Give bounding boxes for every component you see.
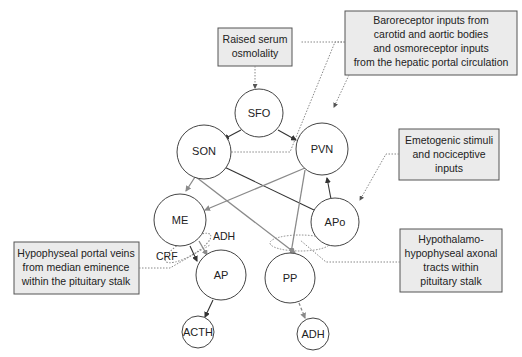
node-acth: ACTH xyxy=(182,316,214,348)
edge-apo-pvn xyxy=(327,178,331,199)
node-adh-output: ADH xyxy=(297,318,329,350)
edge-ap-acth xyxy=(205,300,213,317)
box-line: Hypophyseal portal veins xyxy=(17,247,134,259)
edge-son-me xyxy=(186,177,195,191)
edge-me-ap-adh xyxy=(199,241,207,255)
box-line: osmolality xyxy=(232,47,279,59)
node-pp: PP xyxy=(265,253,315,303)
label-crf: CRF xyxy=(156,250,178,262)
edge-pp-adh xyxy=(299,303,305,318)
box-raised-serum-osmolality: Raised serum osmolality xyxy=(218,28,292,66)
box-line: Raised serum xyxy=(223,33,288,45)
node-label: SON xyxy=(192,145,216,157)
box-hypothalamo-hypophyseal-tracts: Hypothalamo- hypophyseal axonal tracts w… xyxy=(400,229,502,292)
connector-baro-to-pvn xyxy=(334,75,349,107)
box-line: Emetogenic stimuli xyxy=(405,134,493,146)
box-line: hypophyseal axonal xyxy=(405,247,498,259)
box-hypophyseal-portal-veins: Hypophyseal portal veins from median emi… xyxy=(14,242,139,294)
node-label: ME xyxy=(172,214,189,226)
box-line: Hypothalamo- xyxy=(418,233,484,245)
node-label: PP xyxy=(283,272,298,284)
node-label: APo xyxy=(325,216,346,228)
node-sfo: SFO xyxy=(235,89,283,137)
box-line: and nociceptive xyxy=(413,148,486,160)
connector-emeto-to-apo xyxy=(360,154,399,200)
box-line: carotid and aortic bodies xyxy=(374,28,488,40)
box-baroreceptor-inputs: Baroreceptor inputs from carotid and aor… xyxy=(345,11,517,75)
node-son: SON xyxy=(177,125,231,179)
node-label: PVN xyxy=(311,143,334,155)
box-line: pituitary stalk xyxy=(420,275,482,287)
node-label: AP xyxy=(214,269,229,281)
box-line: Baroreceptor inputs from xyxy=(373,14,489,26)
node-pvn: PVN xyxy=(296,123,348,175)
node-label: ADH xyxy=(301,328,324,340)
box-line: tracts within xyxy=(423,261,479,273)
box-line: from median eminence xyxy=(23,261,130,273)
node-label: ACTH xyxy=(183,326,213,338)
edge-son-pp xyxy=(196,177,295,253)
diagram-canvas: Raised serum osmolality Baroreceptor inp… xyxy=(0,0,522,357)
box-emetogenic-stimuli: Emetogenic stimuli and nociceptive input… xyxy=(399,129,499,180)
node-me: ME xyxy=(154,194,206,246)
connector-tracts xyxy=(300,240,400,262)
node-ap: AP xyxy=(196,250,246,300)
box-line: within the pituitary stalk xyxy=(21,275,131,287)
box-line: and osmoreceptor inputs xyxy=(373,42,489,54)
edge-pvn-pp xyxy=(291,170,305,253)
node-label: SFO xyxy=(248,107,271,119)
box-line: from the hepatic portal circulation xyxy=(354,56,509,68)
edge-sfo-pvn xyxy=(278,130,296,140)
box-line: inputs xyxy=(435,162,463,174)
node-apo: APo xyxy=(311,198,359,246)
label-adh: ADH xyxy=(213,230,235,242)
